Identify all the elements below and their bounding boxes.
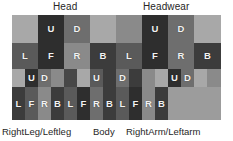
face-cell-b: B (155, 87, 168, 120)
face-cell-r: R (168, 43, 194, 69)
face-cell-l: L (116, 43, 142, 69)
face-cell-d: D (181, 69, 194, 87)
face-cell-u: U (90, 69, 103, 87)
face-cell-r: R (90, 87, 103, 120)
face-cell-blank (194, 87, 207, 120)
face-cell-r: R (38, 87, 51, 120)
face-cell-b: B (103, 87, 116, 120)
face-cell-l: L (116, 87, 129, 120)
headwear-section-label: Headwear (143, 1, 189, 13)
face-cell-blank (51, 69, 64, 87)
face-cell-blank (168, 87, 181, 120)
grid-row-limbs-top: UDUDUD (12, 69, 221, 87)
face-cell-u: U (168, 69, 181, 87)
face-cell-b: B (51, 87, 64, 120)
face-cell-blank (142, 69, 155, 87)
legs-section-label: RightLeg/Leftleg (2, 126, 71, 137)
grid-row-head-top: UDUD (12, 15, 221, 43)
face-cell-blank (181, 87, 194, 120)
face-cell-blank (194, 69, 207, 87)
face-cell-f: F (142, 43, 168, 69)
face-cell-blank (207, 87, 221, 120)
face-cell-l: L (64, 87, 77, 120)
face-cell-d: D (116, 69, 129, 87)
face-cell-blank (129, 69, 142, 87)
face-cell-blank (90, 15, 116, 43)
face-cell-d: D (38, 69, 51, 87)
head-section-label: Head (53, 1, 77, 13)
uv-map-diagram: Head Headwear UDUD LFRBLFRB UDUDUD LFRBL… (0, 0, 233, 141)
face-cell-l: L (12, 43, 38, 69)
face-cell-d: D (64, 15, 90, 43)
body-section-label: Body (93, 126, 115, 137)
face-cell-f: F (129, 87, 142, 120)
face-cell-l: L (12, 87, 25, 120)
grid-row-head-sides: LFRBLFRB (12, 43, 221, 69)
face-cell-b: B (90, 43, 116, 69)
face-cell-blank (12, 15, 38, 43)
face-cell-blank (64, 69, 77, 87)
face-cell-blank (116, 15, 142, 43)
face-cell-u: U (38, 15, 64, 43)
face-cell-u: U (142, 15, 168, 43)
face-cell-blank (207, 69, 221, 87)
face-cell-f: F (25, 87, 38, 120)
face-cell-f: F (38, 43, 64, 69)
face-cell-r: R (64, 43, 90, 69)
face-cell-blank (194, 15, 221, 43)
face-cell-u: U (25, 69, 38, 87)
face-cell-b: B (194, 43, 221, 69)
grid-row-limbs-sides: LFRBLFRBLFRB (12, 87, 221, 120)
face-cell-f: F (77, 87, 90, 120)
texture-grid: UDUD LFRBLFRB UDUDUD LFRBLFRBLFRB (12, 15, 221, 120)
arms-section-label: RightArm/Leftarm (126, 126, 200, 137)
face-cell-blank (155, 69, 168, 87)
face-cell-blank (77, 69, 90, 87)
face-cell-blank (12, 69, 25, 87)
face-cell-d: D (168, 15, 194, 43)
face-cell-blank (103, 69, 116, 87)
face-cell-r: R (142, 87, 155, 120)
